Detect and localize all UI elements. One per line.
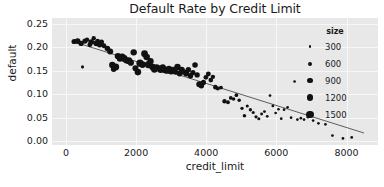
scatter-point: [211, 75, 215, 79]
scatter-point: [81, 65, 84, 68]
legend-item: 600: [300, 55, 378, 72]
scatter-point: [226, 100, 230, 104]
chart-figure: Default Rate by Credit Limit 0.000.050.1…: [0, 0, 384, 187]
legend-item: 900: [300, 72, 378, 89]
legend-dot: [307, 78, 312, 83]
scatter-point: [147, 58, 153, 64]
legend-marker-icon: [300, 78, 320, 83]
scatter-point: [277, 108, 280, 111]
scatter-point: [350, 136, 353, 139]
legend-marker-icon: [300, 111, 320, 119]
legend-item: 1200: [300, 89, 378, 106]
legend-item-label: 1500: [320, 110, 347, 120]
scatter-point: [232, 97, 236, 101]
scatter-point: [290, 116, 293, 119]
scatter-point: [243, 114, 247, 118]
scatter-point: [107, 48, 113, 54]
legend-marker-icon: [300, 62, 320, 66]
legend-rows: 30060090012001500: [300, 38, 378, 123]
scatter-point: [296, 118, 299, 121]
scatter-point: [206, 72, 211, 77]
scatter-point: [130, 49, 136, 55]
legend-item-label: 600: [320, 59, 341, 69]
y-axis-tick-label: 0.05: [0, 112, 48, 123]
legend-title: size: [304, 27, 366, 36]
scatter-point: [112, 64, 119, 71]
legend-item: 1500: [300, 106, 378, 123]
legend-item-label: 900: [320, 76, 341, 86]
scatter-point: [266, 115, 269, 118]
scatter-point: [237, 99, 241, 103]
scatter-point: [254, 115, 257, 118]
legend-dot: [308, 62, 312, 66]
legend-item-label: 300: [320, 42, 341, 52]
legend-dot: [307, 94, 313, 100]
scatter-point: [280, 117, 283, 120]
scatter-point: [240, 107, 243, 110]
scatter-point: [293, 80, 296, 83]
y-axis-tick-label: 0.00: [0, 135, 48, 146]
x-axis-tick-label: 2000: [124, 147, 148, 158]
legend-item: 300: [300, 38, 378, 55]
scatter-point: [269, 94, 272, 97]
legend-item-label: 1200: [320, 93, 347, 103]
scatter-point: [135, 69, 142, 76]
scatter-point: [286, 106, 289, 109]
scatter-point: [274, 112, 277, 115]
page-title: Default Rate by Credit Limit: [52, 1, 378, 16]
x-axis-tick-label: 8000: [334, 147, 358, 158]
y-axis-label: default: [6, 28, 18, 98]
scatter-point: [222, 99, 226, 103]
x-axis-label: credit_limit: [52, 160, 378, 172]
y-axis-tick-label: 0.25: [0, 18, 48, 29]
x-axis-tick-label: 6000: [264, 147, 288, 158]
x-axis-tick-label: 4000: [194, 147, 218, 158]
scatter-point: [219, 86, 223, 90]
scatter-point: [246, 104, 249, 107]
scatter-point: [128, 60, 134, 66]
scatter-point: [194, 72, 199, 77]
legend-marker-icon: [300, 45, 320, 48]
scatter-point: [271, 105, 274, 108]
scatter-point: [324, 123, 327, 126]
scatter-point: [331, 134, 334, 137]
legend-dot: [306, 111, 314, 119]
scatter-point: [235, 93, 239, 97]
scatter-point: [92, 36, 96, 40]
scatter-point: [85, 37, 89, 41]
legend-dot: [309, 45, 312, 48]
scatter-point: [342, 137, 345, 140]
scatter-point: [201, 80, 206, 85]
scatter-point: [192, 62, 198, 68]
scatter-point: [283, 108, 286, 111]
scatter-point: [186, 67, 191, 72]
size-legend: size 30060090012001500: [300, 27, 378, 123]
x-axis-tick-label: 0: [63, 147, 69, 158]
scatter-point: [260, 113, 263, 116]
scatter-point: [249, 108, 252, 111]
scatter-point: [252, 111, 255, 114]
scatter-point: [263, 110, 266, 113]
scatter-point: [257, 117, 260, 120]
legend-marker-icon: [300, 94, 320, 100]
